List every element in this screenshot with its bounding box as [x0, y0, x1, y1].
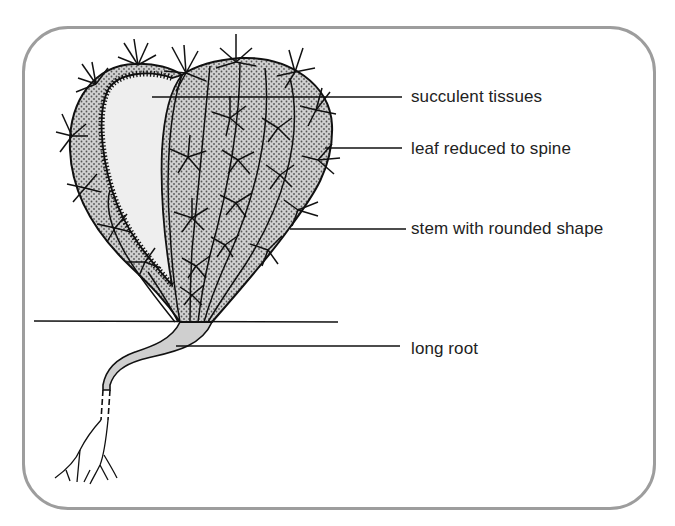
label-stem-with-rounded-shape: stem with rounded shape — [411, 219, 603, 239]
label-long-root: long root — [411, 339, 478, 359]
cactus-stem — [56, 34, 340, 322]
cactus-illustration — [0, 0, 675, 526]
label-succulent-tissues: succulent tissues — [411, 87, 542, 107]
label-leaf-reduced-to-spine: leaf reduced to spine — [411, 139, 571, 159]
